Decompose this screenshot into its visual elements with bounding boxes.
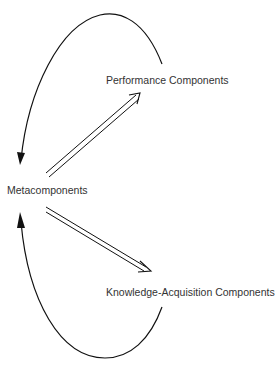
diagram-canvas xyxy=(0,0,278,366)
performance-components-label: Performance Components xyxy=(106,74,229,86)
metacomponents-label: Metacomponents xyxy=(7,184,88,196)
arrowhead-icon xyxy=(17,212,25,228)
arrowhead-icon xyxy=(17,152,25,165)
feedback-arrow-knowledge-to-meta xyxy=(17,212,162,358)
knowledge-acquisition-components-label: Knowledge-Acquisition Components xyxy=(106,286,275,298)
double-arrow-meta-to-knowledge xyxy=(46,207,151,272)
double-arrow-meta-to-performance xyxy=(46,93,140,177)
